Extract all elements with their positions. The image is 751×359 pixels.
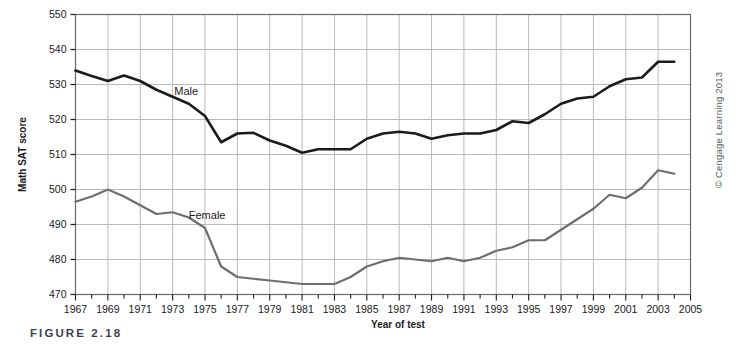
y-tick-label: 490: [49, 218, 67, 230]
y-tick-label: 550: [49, 8, 67, 20]
x-tick-label: 2003: [646, 303, 670, 315]
data-series: [76, 62, 675, 284]
y-tick-label: 500: [49, 183, 67, 195]
x-tick-label: 1987: [388, 303, 412, 315]
x-tick-label: 1975: [193, 303, 217, 315]
x-tick-label: 1991: [452, 303, 476, 315]
y-tick-label: 540: [49, 43, 67, 55]
y-tick-label: 530: [49, 78, 67, 90]
x-tick-label: 1995: [517, 303, 541, 315]
axis-ticks: [71, 15, 691, 301]
x-tick-label: 2001: [614, 303, 638, 315]
x-tick-label: 1999: [582, 303, 606, 315]
y-tick-label: 470: [49, 288, 67, 300]
series-label-female: Female: [189, 209, 226, 221]
series-line-male: [76, 62, 675, 153]
y-tick-label: 510: [49, 148, 67, 160]
x-tick-label: 2005: [679, 303, 703, 315]
axis-tick-labels: 4704804905005105205305405501967196919711…: [49, 8, 702, 314]
x-tick-label: 1969: [96, 303, 120, 315]
series-line-female: [76, 170, 675, 284]
x-tick-label: 1993: [485, 303, 509, 315]
x-tick-label: 1971: [129, 303, 153, 315]
math-sat-score-line-chart: 4704804905005105205305405501967196919711…: [0, 0, 751, 359]
x-tick-label: 1981: [290, 303, 314, 315]
y-tick-label: 520: [49, 113, 67, 125]
x-tick-label: 1983: [323, 303, 347, 315]
x-tick-label: 1989: [420, 303, 444, 315]
x-tick-label: 1979: [258, 303, 282, 315]
figure-caption: FIGURE 2.18: [30, 327, 122, 339]
y-axis-title: Math SAT score: [17, 117, 28, 192]
x-axis-title: Year of test: [371, 319, 426, 330]
series-labels: MaleFemale: [174, 85, 225, 221]
x-tick-label: 1997: [549, 303, 573, 315]
y-tick-label: 480: [49, 253, 67, 265]
x-tick-label: 1985: [355, 303, 379, 315]
series-label-male: Male: [174, 85, 198, 97]
gridlines: [76, 15, 691, 295]
figure-container: 4704804905005105205305405501967196919711…: [0, 0, 751, 359]
x-tick-label: 1967: [64, 303, 88, 315]
x-tick-label: 1973: [161, 303, 185, 315]
x-tick-label: 1977: [226, 303, 250, 315]
copyright-notice: © Cengage Learning 2013: [713, 58, 724, 188]
